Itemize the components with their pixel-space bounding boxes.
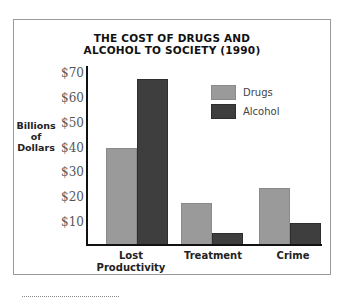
y-tick-50: $50 (58, 117, 84, 129)
chart-title: THE COST OF DRUGS AND ALCOHOL TO SOCIETY… (0, 32, 344, 56)
bar-alcohol-lost-productivity (137, 79, 168, 245)
bar-alcohol-crime (290, 223, 321, 245)
x-category-lost-productivity: Lost Productivity (96, 250, 166, 274)
x-axis-line (86, 244, 322, 246)
y-axis-label-line-2: of (14, 131, 58, 142)
bar-drugs-treatment (181, 203, 212, 245)
y-axis-label: Billions of Dollars (14, 120, 58, 153)
y-tick-40: $40 (58, 142, 84, 154)
x-category-crime: Crime (258, 250, 328, 262)
bar-drugs-lost-productivity (106, 148, 137, 245)
legend-label-drugs: Drugs (243, 87, 273, 99)
chart-title-line-2: ALCOHOL TO SOCIETY (1990) (0, 44, 344, 56)
bar-drugs-crime (259, 188, 290, 245)
legend-swatch-drugs (211, 85, 236, 100)
category-label-line: Lost (96, 250, 166, 262)
x-category-treatment: Treatment (178, 250, 248, 262)
chart-title-line-1: THE COST OF DRUGS AND (0, 32, 344, 44)
y-axis-label-line-3: Dollars (14, 142, 58, 153)
legend-swatch-alcohol (211, 104, 236, 119)
y-tick-60: $60 (58, 92, 84, 104)
y-axis-line (86, 66, 88, 246)
dotted-divider (22, 296, 119, 297)
y-tick-10: $10 (58, 216, 84, 228)
y-tick-30: $30 (58, 166, 84, 178)
y-tick-20: $20 (58, 191, 84, 203)
y-tick-70: $70 (58, 67, 84, 79)
y-axis-label-line-1: Billions (14, 120, 58, 131)
legend-label-alcohol: Alcohol (243, 106, 279, 118)
category-label-line: Productivity (96, 262, 166, 274)
